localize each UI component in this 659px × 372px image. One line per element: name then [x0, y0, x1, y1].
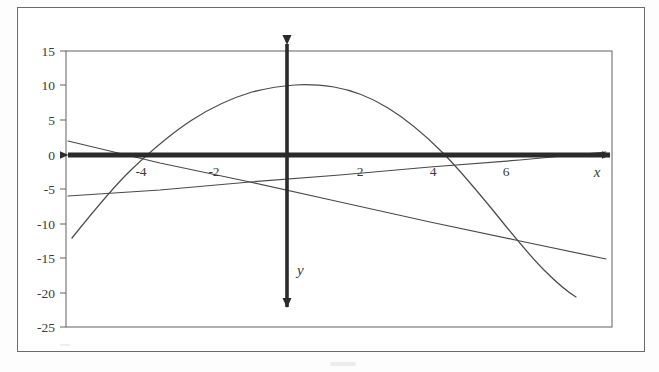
y-tick-label: -25: [37, 320, 55, 335]
y-tick-label: 5: [48, 113, 55, 128]
scanned-page-background: 15 10 5 0 -5 -10 -15 -20 -25: [0, 0, 659, 372]
y-tick-label: 10: [42, 78, 56, 93]
x-axis-name: x: [593, 164, 601, 180]
y-tick-label: -15: [37, 251, 55, 266]
x-tick-label: 2: [357, 164, 364, 179]
y-tick-marks: [60, 51, 66, 327]
plot-frame: [66, 51, 612, 327]
x-tick-label: -2: [208, 164, 219, 179]
curve-ascending-line: [68, 152, 606, 196]
y-tick-labels: 15 10 5 0 -5 -10 -15 -20 -25: [37, 44, 55, 335]
graph-svg: 15 10 5 0 -5 -10 -15 -20 -25: [0, 0, 659, 372]
y-tick-label: -10: [37, 217, 55, 232]
curve-descending-line: [68, 141, 606, 259]
x-tick-label: 6: [503, 164, 510, 179]
x-tick-label: 4: [430, 164, 437, 179]
y-axis-name: y: [295, 262, 304, 278]
x-tick-label: -4: [135, 164, 146, 179]
graph-figure: 15 10 5 0 -5 -10 -15 -20 -25: [0, 0, 659, 372]
y-tick-label: -5: [44, 182, 55, 197]
y-tick-label: 15: [42, 44, 56, 59]
y-tick-label: -20: [37, 286, 55, 301]
y-tick-label: 0: [48, 148, 55, 163]
